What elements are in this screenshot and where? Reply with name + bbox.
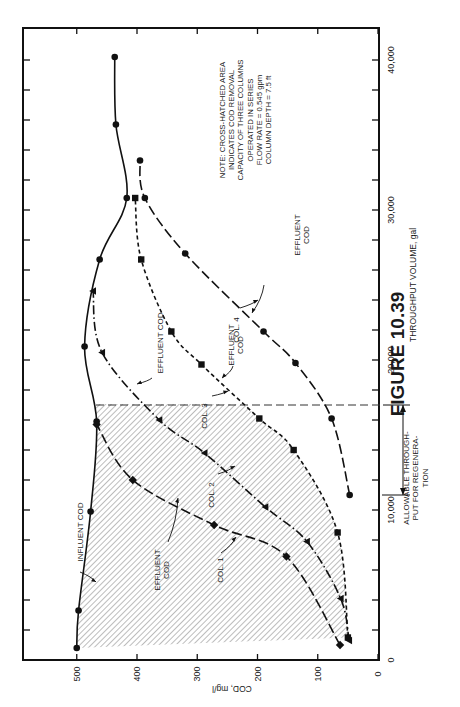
square-marker [138,256,144,262]
circle-marker [346,492,353,499]
label-line: FLOW RATE = 0.545 gpm [255,75,264,166]
diamond-marker [336,641,344,649]
hatched-removal-area [77,57,348,648]
col3-arrow-head [223,391,228,395]
note-text: NOTE: CROSS-HATCHED AREAINDICATES COD RE… [218,60,273,181]
square-marker [168,328,174,334]
col2-effluent-arrow-head [137,380,142,384]
label-line: PUT FOR REGENERA- [411,435,420,520]
circle-marker [292,360,299,367]
label-line: CAPACITY OF THREE COLUMNS [236,60,245,181]
col4-effluent-label: EFFLUENTCOD [293,214,311,255]
y-tick-label: 200 [253,666,263,681]
label-line: COL. 3 [200,403,209,429]
influent-cod-label: INFLUENT COD [76,502,85,561]
circle-marker [75,607,82,614]
label-line: INFLUENT COD [76,502,85,561]
label-line: COD [162,561,171,579]
label-line: NOTE: CROSS-HATCHED AREA [218,61,227,178]
circle-marker [96,256,103,263]
circle-marker [182,250,189,257]
y-tick-label: 500 [72,666,82,681]
circle-marker [73,645,80,652]
circle-marker [137,157,144,164]
label-line: COL. 1 [216,557,225,583]
label-line: EFFLUENT COD [156,312,165,373]
label-line: EFFLUENT [153,549,162,590]
square-marker [132,195,138,201]
circle-marker [113,121,120,128]
square-marker [345,634,351,640]
square-marker [290,447,296,453]
x-tick-label: 30,000 [386,196,396,224]
col2-label: COL. 2 [207,482,216,508]
y-tick-label: 400 [132,666,142,681]
circle-marker [87,508,94,515]
square-marker [198,361,204,367]
hatch-fill [77,57,348,648]
label-line: COL. 2 [207,482,216,508]
circle-marker [111,54,118,61]
circle-marker [81,343,88,350]
circle-marker [328,415,335,422]
y-tick-label: 300 [192,666,202,681]
label-line: COL. 4 [232,317,241,343]
label-line: COD [302,226,311,244]
circle-marker [142,195,149,202]
label-line: EFFLUENT [293,214,302,255]
col1-label: COL. 1 [216,557,225,583]
x-tick-label: 0 [386,657,396,662]
allowable-throughput-label: ALLOWABLE THROUGH-PUT FOR REGENERA-TION [402,431,430,525]
x-tick-label: 40,000 [386,46,396,74]
y-axis-title: COD, mg/l [212,684,252,694]
y-tick-label: 100 [313,666,323,681]
circle-marker [123,195,130,202]
col3-label: COL. 3 [200,403,209,429]
circle-marker [260,328,267,335]
figure-caption-text: FIGURE 10.39 [387,292,409,417]
x-tick-label: 10,000 [386,496,396,524]
label-line: TION [421,468,430,487]
label-line: OPERATED IN SERIES [246,78,255,161]
label-line: INDICATES COD REMOVAL [227,69,236,170]
square-marker [256,415,262,421]
square-marker [334,529,340,535]
col2-effluent-label: EFFLUENT COD [156,312,165,373]
y-tick-label: 0 [373,671,383,676]
x-axis-title: THROUGHPUT VOLUME, gal [408,228,418,342]
col3-effluent-arrow-head [222,373,227,378]
label-line: COLUMN DEPTH = 7.5 ft [264,75,273,164]
col4-label: COL. 4 [232,317,241,343]
